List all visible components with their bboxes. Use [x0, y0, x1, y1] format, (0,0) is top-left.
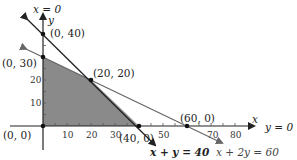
point-60-0-label: (60, 0) — [180, 113, 215, 124]
point-0-40-label: (0, 40) — [50, 28, 85, 39]
x-tick-20: 20 — [86, 131, 97, 140]
x-tick-50: 50 — [158, 131, 169, 140]
point-0-0-label: (0, 0) — [3, 130, 31, 141]
y-eq-0-label: y = 0 — [265, 122, 293, 133]
x-tick-10: 10 — [62, 131, 73, 140]
y-tick-20: 20 — [30, 76, 41, 85]
x-tick-30: 30 — [110, 131, 121, 140]
x-tick-80: 80 — [230, 131, 241, 140]
x-axis-label: x — [252, 114, 258, 125]
point-0-30-label: (0, 30) — [2, 58, 37, 69]
line-x-plus-y-eq-40-label: x + y = 40 — [150, 147, 209, 158]
point-40-0-label: (40, 0) — [119, 133, 154, 144]
y-tick-10: 10 — [30, 99, 41, 108]
x-eq-0-label: x = 0 — [33, 4, 61, 15]
y-axis-label: y — [48, 15, 54, 26]
point-20-20-label: (20, 20) — [93, 68, 135, 79]
x-tick-70: 70 — [207, 131, 218, 140]
line-x-plus-2y-eq-60-label: x + 2y = 60 — [216, 147, 279, 158]
